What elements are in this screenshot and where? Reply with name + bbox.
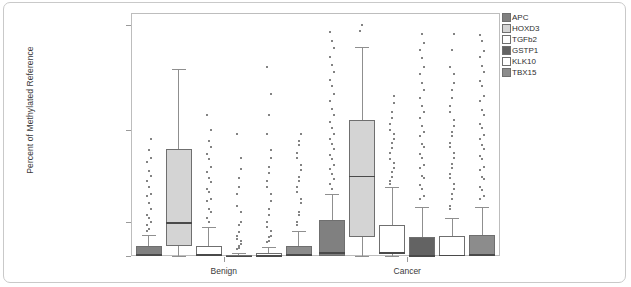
outlier-point: [393, 95, 395, 97]
outlier-point: [391, 147, 393, 149]
outlier-point: [296, 157, 298, 159]
outlier-point: [331, 127, 333, 129]
outlier-point: [331, 64, 333, 66]
outlier-point: [419, 167, 421, 169]
outlier-point: [206, 153, 208, 155]
outlier-point: [329, 183, 331, 185]
y-axis-title: Percent of Methylated Reference: [25, 20, 35, 200]
outlier-point: [451, 49, 453, 51]
outlier-point: [481, 109, 483, 111]
outlier-point: [146, 224, 148, 226]
legend-swatch-icon: [502, 13, 511, 22]
outlier-point: [423, 177, 425, 179]
outlier-point: [150, 157, 152, 159]
outlier-point: [479, 34, 481, 36]
outlier-point: [391, 117, 393, 119]
outlier-point: [449, 66, 451, 68]
outlier-point: [419, 184, 421, 186]
whisker-cap-upper: [232, 253, 246, 254]
outlier-point: [210, 129, 212, 131]
whisker-cap-upper: [142, 235, 156, 236]
outlier-point: [329, 56, 331, 58]
x-group-label-cancer: Cancer: [347, 266, 467, 276]
outlier-point: [423, 146, 425, 148]
outlier-point: [421, 57, 423, 59]
legend-label: KLK10: [512, 57, 536, 66]
outlier-point: [389, 129, 391, 131]
box-iqr: [319, 220, 345, 256]
outlier-point: [270, 235, 272, 237]
outlier-point: [483, 50, 485, 52]
box-iqr: [409, 237, 435, 256]
outlier-point: [451, 198, 453, 200]
outlier-point: [236, 133, 238, 135]
outlier-point: [419, 73, 421, 75]
outlier-point: [296, 224, 298, 226]
outlier-point: [479, 80, 481, 82]
outlier-point: [208, 191, 210, 193]
median-line: [166, 222, 192, 224]
outlier-point: [148, 170, 150, 172]
outlier-point: [268, 236, 270, 238]
legend: APCHOXD3TGFb2GSTP1KLK10TBX15: [500, 11, 596, 79]
whisker-upper: [148, 235, 149, 247]
whisker-upper: [362, 47, 363, 120]
outlier-point: [333, 164, 335, 166]
whisker-cap-lower: [385, 256, 399, 257]
outlier-point: [421, 143, 423, 145]
outlier-point: [236, 205, 238, 207]
outlier-point: [296, 152, 298, 154]
outlier-point: [393, 133, 395, 135]
outlier-point: [481, 127, 483, 129]
outlier-point: [333, 133, 335, 135]
outlier-point: [266, 241, 268, 243]
outlier-point: [479, 100, 481, 102]
whisker-upper: [332, 194, 333, 220]
outlier-point: [393, 102, 395, 104]
outlier-point: [208, 158, 210, 160]
outlier-point: [146, 214, 148, 216]
outlier-point: [451, 135, 453, 137]
legend-swatch-icon: [502, 68, 511, 77]
outlier-point: [266, 226, 268, 228]
outlier-point: [268, 114, 270, 116]
outlier-point: [483, 134, 485, 136]
outlier-point: [148, 149, 150, 151]
outlier-point: [266, 66, 268, 68]
outlier-point: [479, 56, 481, 58]
box-iqr: [379, 225, 405, 254]
outlier-point: [236, 235, 238, 237]
whisker-cap-upper: [172, 69, 186, 70]
median-line: [409, 255, 435, 257]
outlier-point: [270, 193, 272, 195]
outlier-point: [423, 164, 425, 166]
whisker-upper: [482, 207, 483, 235]
outlier-point: [481, 65, 483, 67]
whisker-cap-upper: [385, 187, 399, 188]
box-iqr: [166, 149, 192, 246]
outlier-point: [331, 143, 333, 145]
outlier-point: [391, 111, 393, 113]
outlier-point: [208, 221, 210, 223]
outlier-point: [238, 177, 240, 179]
outlier-point: [419, 153, 421, 155]
outlier-point: [333, 47, 335, 49]
box-plot: [379, 0, 405, 287]
outlier-point: [389, 180, 391, 182]
outlier-point: [423, 42, 425, 44]
outlier-point: [479, 198, 481, 200]
outlier-point: [266, 221, 268, 223]
outlier-point: [389, 123, 391, 125]
outlier-point: [361, 24, 363, 26]
whisker-cap-upper: [415, 207, 429, 208]
outlier-point: [210, 146, 212, 148]
outlier-point: [423, 89, 425, 91]
box-iqr: [439, 236, 465, 256]
outlier-point: [296, 191, 298, 193]
outlier-point: [270, 157, 272, 159]
outlier-point: [240, 221, 242, 223]
outlier-point: [210, 166, 212, 168]
outlier-point: [453, 73, 455, 75]
outlier-point: [421, 105, 423, 107]
outlier-point: [483, 148, 485, 150]
